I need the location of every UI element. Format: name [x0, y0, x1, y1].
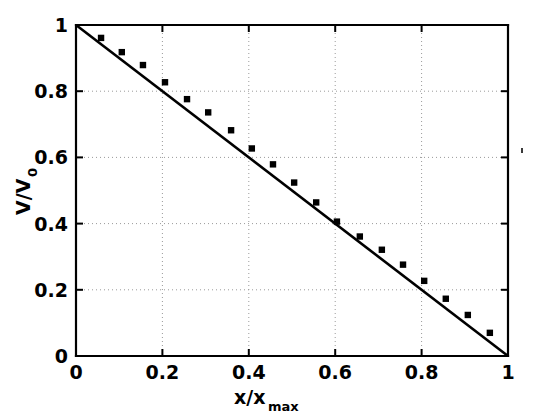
x-tick-label: 0.8 — [405, 361, 439, 383]
x-axis-title-subscript: max — [268, 399, 299, 414]
data-point-marker — [205, 109, 211, 115]
data-point-marker — [270, 161, 276, 167]
data-point-marker — [119, 49, 125, 55]
x-tick-label: 0 — [69, 361, 82, 383]
data-point-marker — [443, 296, 449, 302]
data-point-marker — [379, 247, 385, 253]
y-tick-label: 0.2 — [34, 279, 68, 301]
y-axis-title-main: V/V — [12, 178, 34, 215]
data-point-marker — [313, 199, 319, 205]
scatter-plot: 00.20.40.60.81 00.20.40.60.81 x/x max V/… — [0, 0, 538, 416]
y-axis-title: V/V 0 — [12, 168, 40, 215]
y-tick-label: 0.8 — [34, 80, 68, 102]
y-axis-title-subscript: 0 — [25, 168, 40, 177]
y-tick-label: 1 — [55, 14, 68, 36]
scan-artifact-speck — [521, 148, 523, 153]
x-tick-label: 0.4 — [232, 361, 266, 383]
fit-line — [76, 25, 508, 356]
y-tick-label: 0 — [55, 345, 68, 367]
data-point-marker — [162, 79, 168, 85]
data-point-marker — [249, 145, 255, 151]
x-tick-labels: 00.20.40.60.81 — [69, 361, 514, 383]
data-point-marker — [291, 179, 297, 185]
y-tick-label: 0.6 — [34, 146, 68, 168]
x-tick-label: 0.2 — [146, 361, 180, 383]
fit-line-group — [76, 25, 508, 356]
figure-container: 00.20.40.60.81 00.20.40.60.81 x/x max V/… — [0, 0, 538, 416]
data-point-marker — [140, 62, 146, 68]
x-tick-label: 0.6 — [318, 361, 352, 383]
data-point-marker — [184, 96, 190, 102]
data-point-marker — [487, 330, 493, 336]
x-axis-title-main: x/x — [234, 386, 265, 408]
data-point-marker — [465, 312, 471, 318]
data-point-marker — [98, 35, 104, 41]
x-axis-title: x/x max — [234, 386, 299, 414]
x-tick-label: 1 — [501, 361, 514, 383]
y-tick-labels: 00.20.40.60.81 — [34, 14, 68, 367]
data-point-marker — [357, 233, 363, 239]
data-markers-group — [98, 35, 493, 336]
y-tick-label: 0.4 — [34, 213, 68, 235]
data-point-marker — [400, 261, 406, 267]
data-point-marker — [421, 278, 427, 284]
data-point-marker — [228, 127, 234, 133]
data-point-marker — [334, 218, 340, 224]
